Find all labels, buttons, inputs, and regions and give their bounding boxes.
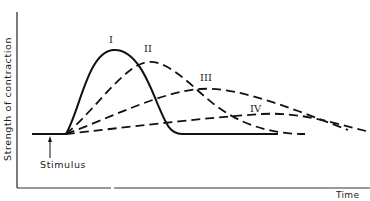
x-axis-label: Time [336,190,359,200]
curve-label-III: III [200,72,212,83]
curve-label-IV: IV [250,103,261,114]
curve-II [66,62,305,134]
y-axis-label: Strength of contraction [2,41,14,161]
stimulus-label: Stimulus [40,159,86,170]
curve-label-II: II [144,43,152,54]
muscle-twitch-figure: Strength of contraction Time Stimulus I … [0,0,370,201]
stimulus-arrow-icon [48,136,52,158]
curve-III [66,89,348,134]
curve-label-I: I [109,34,113,45]
chart-plot [0,0,370,201]
